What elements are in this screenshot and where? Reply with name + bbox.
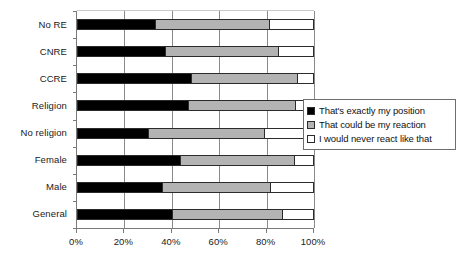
plot-top-edge (77, 10, 314, 11)
legend-item: That's exactly my position (307, 104, 452, 117)
bar-group (77, 182, 314, 193)
bar-group (77, 155, 314, 166)
bar-segment (172, 209, 282, 220)
stacked-bar (77, 128, 314, 139)
black-swatch-icon (307, 107, 315, 115)
bar-segment (297, 73, 314, 84)
y-axis-tick (73, 11, 77, 12)
x-axis-label: 100% (301, 236, 326, 247)
stacked-bar (77, 100, 314, 111)
y-axis-label: Religion (0, 100, 72, 111)
stacked-bar-chart: No RECNRECCREReligionNo religionFemaleMa… (0, 0, 466, 262)
bar-segment (77, 209, 172, 220)
bar-segment (77, 73, 191, 84)
y-axis-tick (73, 201, 77, 202)
chart-legend: That's exactly my position That could be… (303, 99, 456, 150)
y-axis-tick (73, 147, 77, 148)
bar-segment (77, 100, 188, 111)
stacked-bar (77, 73, 314, 84)
x-axis-tick (313, 229, 314, 233)
bar-segment (188, 100, 295, 111)
stacked-bar (77, 209, 314, 220)
bar-segment (165, 46, 279, 57)
bar-segment (294, 155, 314, 166)
x-axis-label: 40% (161, 236, 180, 247)
legend-item-label: That's exactly my position (319, 105, 425, 116)
x-axis-tick (171, 229, 172, 233)
x-axis-label: 0% (69, 236, 83, 247)
bar-group (77, 19, 314, 30)
bar-segment (77, 182, 162, 193)
bar-group (77, 209, 314, 220)
y-axis-tick (73, 38, 77, 39)
y-axis-label: No RE (0, 19, 72, 30)
stacked-bar (77, 46, 314, 57)
legend-item-label: I would never react like that (319, 133, 432, 144)
y-axis-label: CCRE (0, 73, 72, 84)
bar-segment (148, 128, 264, 139)
bar-group (77, 100, 314, 111)
y-axis-tick (73, 65, 77, 66)
bar-segment (155, 19, 269, 30)
y-axis-label: Male (0, 181, 72, 192)
x-axis: 0%20%40%60%80%100% (76, 229, 313, 257)
y-axis-tick (73, 120, 77, 121)
bar-group (77, 73, 314, 84)
bar-segment (77, 19, 155, 30)
bar-segment (191, 73, 298, 84)
gridline (267, 11, 268, 228)
y-axis-tick (73, 92, 77, 93)
x-axis-tick (266, 229, 267, 233)
y-axis-label: No religion (0, 127, 72, 138)
y-axis-label: Female (0, 154, 72, 165)
gridline (219, 11, 220, 228)
y-axis-tick (73, 174, 77, 175)
gridline (124, 11, 125, 228)
bar-segment (269, 19, 314, 30)
stacked-bar (77, 19, 314, 30)
bar-group (77, 128, 314, 139)
bar-group (77, 46, 314, 57)
legend-item: I would never react like that (307, 132, 452, 145)
x-axis-tick (218, 229, 219, 233)
gray-swatch-icon (307, 121, 315, 129)
x-axis-tick (76, 229, 77, 233)
bar-segment (77, 128, 148, 139)
bar-segment (77, 46, 165, 57)
gridline (172, 11, 173, 228)
x-axis-label: 20% (114, 236, 133, 247)
legend-item: That could be my reaction (307, 118, 452, 131)
white-swatch-icon (307, 135, 315, 143)
stacked-bar (77, 155, 314, 166)
x-axis-label: 60% (209, 236, 228, 247)
y-axis-labels: No RECNRECCREReligionNo religionFemaleMa… (0, 11, 72, 228)
legend-item-label: That could be my reaction (319, 119, 426, 130)
y-axis-label: General (0, 208, 72, 219)
plot-area (76, 11, 314, 229)
bar-segment (270, 182, 314, 193)
bar-segment (77, 155, 180, 166)
y-axis-label: CNRE (0, 46, 72, 57)
bar-segment (162, 182, 270, 193)
x-axis-tick (123, 229, 124, 233)
stacked-bar (77, 182, 314, 193)
bar-segment (282, 209, 314, 220)
bar-segment (278, 46, 314, 57)
bar-segment (180, 155, 294, 166)
x-axis-label: 80% (256, 236, 275, 247)
